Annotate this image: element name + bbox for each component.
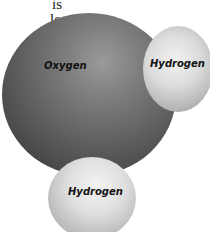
water-molecule-diagram: is le- , Oxygen Hydrogen Hydrogen (0, 0, 210, 232)
oxygen-label: Oxygen (44, 60, 87, 71)
hydrogen-bottom-label: Hydrogen (68, 186, 123, 197)
hydrogen-right-label: Hydrogen (150, 58, 205, 69)
hydrogen-atom-right (143, 26, 210, 112)
